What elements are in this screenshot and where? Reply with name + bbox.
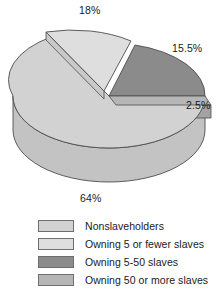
legend-swatch-50-or-more [38,274,74,286]
data-label-15-5-percent: 15.5% [172,42,202,54]
pie-chart: 18% 15.5% 2.5% 64% [0,0,218,212]
legend-label-5-or-fewer: Owning 5 or fewer slaves [85,238,204,250]
legend-label-5-to-50: Owning 5-50 slaves [85,256,178,268]
legend-item-5-to-50: Owning 5-50 slaves [38,253,178,271]
legend-item-nonslaveholders: Nonslaveholders [38,217,164,235]
legend-label-50-or-more: Owning 50 or more slaves [85,274,208,286]
legend-swatch-5-or-fewer [38,238,74,250]
legend-item-5-or-fewer: Owning 5 or fewer slaves [38,235,204,253]
legend-swatch-5-to-50 [38,256,74,268]
data-label-18-percent: 18% [79,4,100,16]
data-label-64-percent: 64% [80,192,101,204]
legend-item-50-or-more: Owning 50 or more slaves [38,271,208,289]
legend-label-nonslaveholders: Nonslaveholders [85,220,164,232]
legend-swatch-nonslaveholders [38,220,74,232]
chart-legend: Nonslaveholders Owning 5 or fewer slaves… [0,212,218,298]
data-label-2-5-percent: 2.5% [186,99,210,111]
